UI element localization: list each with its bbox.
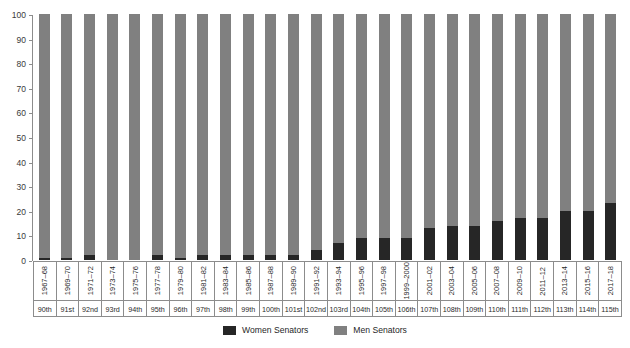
bar-segment-women: [492, 221, 503, 260]
x-axis-congress-label: 100th: [262, 305, 280, 314]
y-tick-label: 10: [2, 232, 26, 240]
x-axis-years-label: 1999–2000: [402, 262, 411, 300]
x-axis-years-cell: 1977–78: [147, 262, 169, 301]
bar-segment-men: [515, 14, 526, 218]
x-axis-years-label: 1989–90: [289, 266, 298, 295]
legend-label: Women Senators: [242, 325, 308, 335]
bar-segment-men: [560, 14, 571, 211]
x-axis-years-label: 1985–86: [244, 266, 253, 295]
bar-segment-women: [220, 255, 231, 260]
x-axis-congress-cell: 103rd: [328, 301, 350, 317]
x-axis-congress-cell: 105th: [373, 301, 395, 317]
x-axis-congress-label: 110th: [488, 305, 505, 314]
x-axis-cell: 1979–8096th: [170, 262, 193, 316]
x-axis-congress-label: 113th: [556, 305, 573, 314]
x-axis-cell: 1975–7694th: [124, 262, 147, 316]
x-axis-cell: 1977–7895th: [147, 262, 170, 316]
y-tick-mark: [29, 89, 32, 90]
y-tick-mark: [29, 15, 32, 16]
x-axis-congress-cell: 96th: [170, 301, 192, 317]
x-axis-years-label: 1995–96: [357, 266, 366, 295]
x-axis-congress-cell: 104th: [351, 301, 373, 317]
x-axis-years-label: 2005–06: [470, 266, 479, 295]
bar-segment-women: [447, 226, 458, 260]
x-axis-congress-label: 90th: [38, 305, 52, 314]
x-axis-years-cell: 1969–70: [57, 262, 79, 301]
x-axis-years-label: 1971–72: [86, 266, 95, 295]
legend-label: Men Senators: [353, 325, 407, 335]
bar-segment-men: [333, 14, 344, 243]
bar-segment-men: [197, 14, 208, 255]
bar-segment-men: [265, 14, 276, 255]
bar-column: [401, 14, 412, 260]
x-axis-congress-cell: 101st: [283, 301, 305, 317]
x-axis-cell: 1993–94103rd: [328, 262, 351, 316]
bar-column: [39, 14, 50, 260]
x-axis-cell: 1999–2000106th: [396, 262, 419, 316]
y-tick-label: 30: [2, 183, 26, 191]
bar-segment-men: [537, 14, 548, 218]
y-tick-label: 40: [2, 159, 26, 167]
x-axis-cell: 2007–08110th: [486, 262, 509, 316]
legend-item[interactable]: Men Senators: [334, 325, 407, 335]
bar-column: [447, 14, 458, 260]
bar-column: [107, 14, 118, 260]
bar-column: [311, 14, 322, 260]
x-axis-cell: 1967–6890th: [34, 262, 57, 316]
x-axis-years-cell: 1979–80: [170, 262, 192, 301]
plot-area: [33, 14, 622, 262]
x-axis-congress-label: 112th: [533, 305, 550, 314]
bar-segment-men: [401, 14, 412, 238]
x-axis-years-cell: 1967–68: [34, 262, 56, 301]
x-axis-years-label: 1991–92: [312, 266, 321, 295]
y-tick-label: 20: [2, 208, 26, 216]
x-axis-years-cell: 2001–02: [418, 262, 440, 301]
x-axis-congress-cell: 90th: [34, 301, 56, 317]
x-axis-years-label: 2007–08: [492, 266, 501, 295]
x-axis-congress-cell: 100th: [260, 301, 282, 317]
legend-item[interactable]: Women Senators: [223, 325, 308, 335]
bar-segment-men: [129, 14, 140, 260]
x-axis-years-label: 1967–68: [40, 266, 49, 295]
bar-segment-women: [605, 203, 616, 260]
bar-segment-men: [39, 14, 50, 258]
x-axis-years-cell: 2003–04: [441, 262, 463, 301]
bar-column: [583, 14, 594, 260]
x-axis-cell: 1981–8297th: [192, 262, 215, 316]
x-axis-congress-label: 101st: [285, 305, 303, 314]
y-tick-mark: [29, 138, 32, 139]
x-axis-years-label: 1981–82: [199, 266, 208, 295]
bar-column: [379, 14, 390, 260]
x-axis-congress-label: 96th: [173, 305, 187, 314]
x-axis-years-label: 1979–80: [176, 266, 185, 295]
x-axis-years-cell: 1995–96: [351, 262, 373, 301]
x-axis-years-label: 1973–74: [108, 266, 117, 295]
x-axis-years-cell: 1971–72: [79, 262, 101, 301]
bar-segment-women: [424, 228, 435, 260]
bar-segment-men: [311, 14, 322, 250]
x-axis-years-label: 2001–02: [425, 266, 434, 295]
x-axis-years-cell: 2013–14: [554, 262, 576, 301]
bar-column: [265, 14, 276, 260]
x-axis-congress-cell: 94th: [124, 301, 146, 317]
y-tick-mark: [29, 113, 32, 114]
bar-segment-men: [243, 14, 254, 255]
x-axis-cell: 1971–7292nd: [79, 262, 102, 316]
x-axis-congress-label: 111th: [511, 305, 528, 314]
y-tick-mark: [29, 187, 32, 188]
x-axis-congress-label: 95th: [151, 305, 165, 314]
x-axis-years-cell: 1981–82: [192, 262, 214, 301]
bar-segment-women: [152, 255, 163, 260]
bar-segment-women: [583, 211, 594, 260]
x-axis-years-cell: 1991–92: [305, 262, 327, 301]
x-axis-cell: 2003–04108th: [441, 262, 464, 316]
y-tick-label: 100: [2, 11, 26, 19]
y-tick-label: 70: [2, 85, 26, 93]
x-axis-years-cell: 1983–84: [215, 262, 237, 301]
x-axis-years-label: 1993–94: [334, 266, 343, 295]
x-axis-years-cell: 1989–90: [283, 262, 305, 301]
bar-segment-women: [197, 255, 208, 260]
x-axis-congress-label: 99th: [241, 305, 255, 314]
x-axis-years-cell: 2005–06: [464, 262, 486, 301]
x-axis-years-label: 1983–84: [221, 266, 230, 295]
